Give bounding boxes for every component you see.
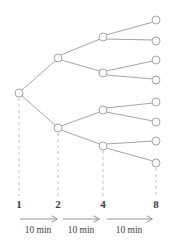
guide-dashed-lines bbox=[19, 98, 156, 196]
cell-division-tree-figure bbox=[0, 0, 170, 248]
edge-n3c-to-leaf6 bbox=[106, 112, 153, 121]
edge-n3d-to-leaf8 bbox=[106, 148, 153, 161]
count-label-4: 4 bbox=[100, 198, 106, 210]
edge-n3b-to-leaf3 bbox=[106, 61, 153, 71]
edge-n3c-to-leaf5 bbox=[106, 103, 153, 108]
node-l3-c bbox=[99, 106, 107, 114]
edge-n3a-to-leaf1 bbox=[106, 22, 153, 35]
node-leaf-6 bbox=[152, 118, 160, 126]
edge-n2b-to-n3d bbox=[61, 130, 100, 144]
node-leaf-2 bbox=[152, 37, 160, 45]
node-leaf-4 bbox=[152, 76, 160, 84]
node-leaf-5 bbox=[152, 98, 160, 106]
interval-label-3: 10 min bbox=[116, 225, 143, 235]
node-l2-b bbox=[54, 124, 62, 132]
edge-n3b-to-leaf4 bbox=[106, 75, 153, 79]
count-label-2: 2 bbox=[55, 198, 61, 210]
edge-n3d-to-leaf7 bbox=[106, 141, 153, 144]
time-axis-arrows bbox=[20, 216, 153, 222]
node-l3-a bbox=[99, 33, 107, 41]
edge-root-to-n2b bbox=[22, 96, 55, 125]
node-l3-b bbox=[99, 69, 107, 77]
node-l3-d bbox=[99, 142, 107, 150]
count-label-1: 1 bbox=[16, 198, 22, 210]
node-leaf-8 bbox=[152, 159, 160, 167]
node-leaf-7 bbox=[152, 137, 160, 145]
count-label-8: 8 bbox=[153, 198, 159, 210]
edge-n2a-to-n3b bbox=[61, 60, 100, 71]
node-leaf-3 bbox=[152, 56, 160, 64]
edge-n2b-to-n3c bbox=[61, 112, 100, 126]
tree-nodes bbox=[15, 16, 160, 167]
interval-label-2: 10 min bbox=[68, 225, 95, 235]
node-leaf-1 bbox=[152, 16, 160, 24]
node-root bbox=[15, 89, 23, 97]
interval-label-1: 10 min bbox=[25, 225, 52, 235]
node-l2-a bbox=[54, 54, 62, 62]
edge-n2a-to-n3a bbox=[61, 39, 100, 55]
tree-edges bbox=[22, 22, 153, 161]
edge-root-to-n2a bbox=[22, 61, 55, 90]
edge-n3a-to-leaf2 bbox=[106, 39, 153, 40]
